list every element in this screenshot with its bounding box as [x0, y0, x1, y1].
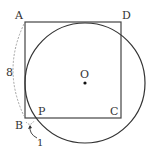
label-b: B	[15, 119, 23, 132]
square-abcd	[25, 22, 121, 118]
label-length-bp: 1	[37, 137, 43, 148]
label-length-ab: 8	[6, 66, 13, 79]
center-point-o	[83, 81, 86, 84]
label-c: C	[110, 105, 118, 118]
arrow-head	[28, 125, 32, 129]
label-p: P	[38, 105, 46, 118]
dimension-arc-bp	[26, 121, 34, 124]
label-d: D	[122, 9, 131, 22]
dimension-arc-ab	[13, 24, 24, 116]
geometry-diagram: A D O C P B 8 1	[0, 0, 152, 151]
label-o: O	[80, 68, 89, 81]
label-a: A	[14, 9, 24, 22]
